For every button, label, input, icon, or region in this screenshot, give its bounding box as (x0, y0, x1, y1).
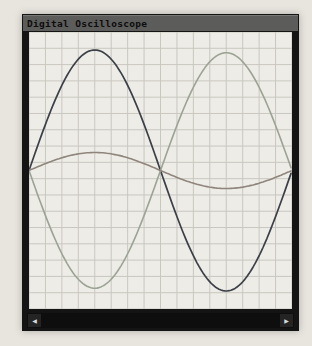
window-title: Digital Oscilloscope (27, 18, 147, 29)
oscilloscope-display (29, 32, 292, 309)
scrollbar-track[interactable] (42, 313, 279, 328)
horizontal-scrollbar[interactable]: ◀ ▶ (27, 313, 294, 328)
oscilloscope-window: Digital Oscilloscope ◀ ▶ (22, 14, 299, 331)
waveform-chart (29, 32, 292, 309)
scroll-left-button[interactable]: ◀ (28, 314, 41, 327)
window-titlebar[interactable]: Digital Oscilloscope (23, 15, 298, 31)
scroll-right-button[interactable]: ▶ (280, 314, 293, 327)
page-background: Digital Oscilloscope ◀ ▶ (0, 0, 312, 346)
right-arrow-icon: ▶ (284, 317, 289, 324)
left-arrow-icon: ◀ (32, 317, 37, 324)
